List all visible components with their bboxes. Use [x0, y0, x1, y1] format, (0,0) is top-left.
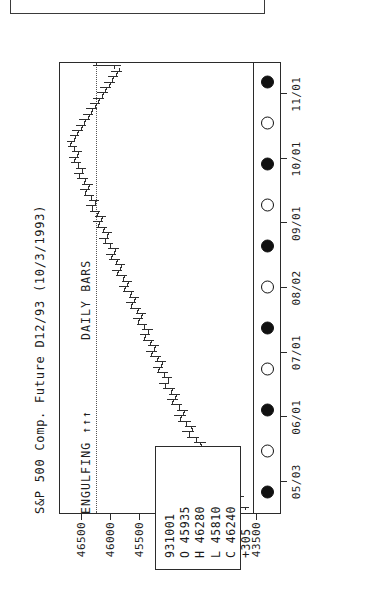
date-tick-label: 09/01 — [290, 206, 303, 241]
ohlc-bar — [182, 431, 194, 432]
open-tick — [144, 324, 145, 327]
ohlc-bar — [174, 415, 186, 416]
ohlc-bar — [185, 426, 196, 427]
quote-close-value: 46240 — [224, 506, 238, 543]
ohlc-bar — [126, 302, 136, 303]
close-tick — [96, 62, 97, 65]
open-tick — [82, 168, 83, 171]
top-toolbar-panel[interactable] — [10, 0, 265, 14]
open-tick — [176, 394, 177, 397]
ohlc-bar — [171, 404, 183, 405]
open-tick — [152, 351, 153, 354]
ohlc-bar — [122, 281, 133, 282]
ohlc-bar — [86, 108, 97, 109]
ohlc-bar — [178, 421, 191, 422]
ohlc-bar — [100, 87, 111, 88]
ohlc-bar — [67, 141, 76, 142]
quote-close: C 46240 — [224, 457, 239, 558]
open-tick — [106, 87, 107, 90]
price-tick-label: 45500 — [133, 522, 146, 557]
open-tick — [138, 308, 139, 311]
date-tick — [281, 222, 287, 223]
open-tick — [131, 291, 132, 294]
open-tick — [173, 399, 174, 402]
open-tick — [110, 243, 111, 246]
quote-high-label: H — [193, 551, 207, 558]
ohlc-bar — [90, 103, 101, 104]
ohlc-bar — [97, 92, 108, 93]
signal-marker-hollow[interactable] — [261, 363, 274, 376]
open-tick — [99, 98, 100, 101]
quote-high: H 46280 — [193, 457, 208, 558]
ohlc-bar — [108, 248, 119, 249]
open-tick — [191, 426, 192, 429]
ohlc-bar — [155, 361, 166, 362]
ohlc-bar — [68, 146, 77, 147]
ohlc-bar — [95, 216, 106, 217]
signal-marker-filled[interactable] — [261, 486, 274, 499]
quote-close-label: C — [224, 551, 238, 558]
price-tick-label: 46000 — [103, 522, 116, 557]
ohlc-bar — [146, 351, 157, 352]
open-tick — [125, 286, 126, 289]
open-tick — [117, 259, 118, 262]
open-tick — [108, 232, 109, 235]
signal-marker-hollow[interactable] — [261, 445, 274, 458]
ohlc-bar — [72, 151, 83, 152]
price-tick — [110, 513, 111, 520]
ohlc-bar — [93, 65, 120, 66]
signal-marker-hollow[interactable] — [261, 198, 274, 211]
open-tick — [95, 200, 96, 203]
ohlc-bar — [162, 377, 173, 378]
ohlc-bar — [79, 119, 90, 120]
ohlc-bar — [102, 232, 113, 233]
signal-marker-hollow[interactable] — [261, 281, 274, 294]
ohlc-bar — [129, 297, 140, 298]
quote-low: L 45810 — [209, 457, 224, 558]
open-tick — [132, 302, 133, 305]
open-tick — [114, 65, 115, 68]
signal-marker-filled[interactable] — [261, 322, 274, 335]
signal-marker-filled[interactable] — [261, 157, 274, 170]
open-tick — [165, 383, 166, 386]
date-tick — [281, 416, 287, 417]
ohlc-bar — [109, 259, 120, 260]
ohlc-bar — [123, 291, 134, 292]
open-tick — [142, 313, 143, 316]
ohlc-bar — [71, 162, 81, 163]
ohlc-bar — [70, 135, 80, 136]
open-tick — [103, 92, 104, 95]
ohlc-bar — [194, 442, 206, 443]
signal-marker-hollow[interactable] — [261, 116, 274, 129]
signal-marker-filled[interactable] — [261, 75, 274, 88]
open-tick — [92, 108, 93, 111]
open-tick — [118, 270, 119, 273]
ohlc-bar — [76, 168, 87, 169]
open-tick — [112, 254, 113, 257]
signal-marker-filled[interactable] — [261, 239, 274, 252]
date-axis: 05/0306/0107/0108/0209/0110/0111/01 — [281, 62, 341, 514]
open-tick — [78, 162, 79, 165]
ohlc-bar — [90, 211, 101, 212]
ohlc-bar — [83, 114, 94, 115]
open-tick — [139, 318, 140, 321]
engulfing-arrows-icon: ↑↑↑ — [79, 410, 93, 434]
date-tick-label: 07/01 — [290, 335, 303, 370]
ohlc-bar — [93, 221, 103, 222]
ohlc-bar — [116, 275, 127, 276]
ohlc-bar — [86, 205, 96, 206]
open-tick — [158, 356, 159, 359]
ohlc-bar — [82, 184, 93, 185]
ohlc-bar — [89, 200, 100, 201]
ohlc-bar — [76, 125, 87, 126]
date-tick — [281, 481, 287, 482]
open-tick — [98, 211, 99, 214]
signal-marker-filled[interactable] — [261, 404, 274, 417]
close-tick — [119, 68, 120, 71]
ohlc-bar — [140, 334, 150, 335]
open-tick — [104, 227, 105, 230]
quote-change: +305 — [239, 457, 254, 558]
open-tick — [96, 103, 97, 106]
engulfing-caption: ENGULFING ↑↑↑ — [79, 410, 93, 514]
open-tick — [75, 135, 76, 138]
